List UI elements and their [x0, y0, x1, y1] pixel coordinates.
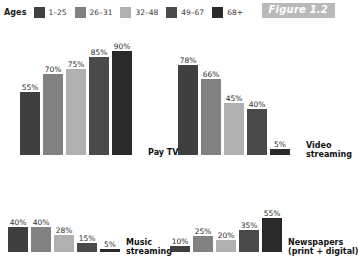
bar-rect — [20, 92, 40, 155]
bar-rect — [66, 69, 86, 155]
panel-label-music-streaming-line2: streaming — [126, 247, 172, 256]
panel-label-video-streaming: Video streaming — [306, 141, 352, 159]
bar-item: 28% — [54, 235, 74, 252]
bar-value-label: 40% — [10, 219, 27, 227]
legend-item-26-31: 26–31 — [75, 7, 113, 18]
legend-title: Ages — [4, 8, 27, 17]
bar-rect — [224, 103, 244, 155]
bar-value-label: 55% — [264, 210, 281, 218]
panel-label-music-streaming: Music streaming — [126, 238, 172, 256]
panel-label-newspapers: Newspapers (print + digital) — [288, 238, 358, 256]
legend-label-32-48: 32–48 — [135, 8, 158, 17]
legend-item-32-48: 32–48 — [120, 7, 158, 18]
legend-label-68-plus: 68+ — [227, 8, 243, 17]
bar-item: 70% — [43, 74, 63, 155]
bar-value-label: 25% — [195, 228, 212, 236]
bar-value-label: 75% — [68, 61, 85, 69]
bar-item: 15% — [77, 243, 97, 252]
bar-value-label: 55% — [22, 84, 39, 92]
bar-group-video-streaming: 78%66%45%40%5% — [178, 40, 290, 155]
bar-rect — [54, 235, 74, 252]
bar-rect — [77, 243, 97, 252]
chart-panel-pay-tv: 55%70%75%85%90% Pay TV — [20, 40, 145, 155]
bar-group-pay-tv: 55%70%75%85%90% — [20, 40, 132, 155]
bar-item: 85% — [89, 57, 109, 155]
panel-label-video-streaming-line1: Video — [306, 141, 331, 150]
bar-value-label: 5% — [274, 141, 286, 149]
bar-rect — [100, 249, 120, 252]
legend-item-49-67: 49–67 — [166, 7, 204, 18]
bar-rect — [8, 227, 28, 252]
bar-item: 55% — [20, 92, 40, 155]
bar-item: 20% — [216, 240, 236, 252]
chart-panel-newspapers: 10%25%20%35%55% Newspapers (print + digi… — [170, 190, 295, 252]
bar-value-label: 20% — [218, 232, 235, 240]
bar-rect — [201, 79, 221, 155]
bar-rect — [112, 51, 132, 155]
legend: Ages 1–25 26–31 32–48 49–67 68+ — [4, 5, 251, 19]
bar-item: 5% — [100, 249, 120, 252]
bar-item: 78% — [178, 65, 198, 155]
bar-rect — [43, 74, 63, 155]
bar-rect — [193, 236, 213, 252]
bar-rect — [262, 218, 282, 252]
bar-rect — [247, 109, 267, 155]
panel-label-video-streaming-line2: streaming — [306, 150, 352, 159]
bar-item: 25% — [193, 236, 213, 252]
legend-swatch-26-31 — [75, 7, 86, 18]
bar-rect — [239, 230, 259, 252]
bar-item: 40% — [247, 109, 267, 155]
bar-item: 55% — [262, 218, 282, 252]
bar-item: 10% — [170, 246, 190, 252]
bar-group-music-streaming: 40%40%28%15%5% — [8, 190, 120, 252]
panel-label-pay-tv-line1: Pay TV — [148, 148, 178, 157]
figure-badge: Figure 1.2 — [262, 3, 335, 18]
bar-value-label: 78% — [180, 57, 197, 65]
bar-item: 45% — [224, 103, 244, 155]
bar-value-label: 10% — [172, 238, 189, 246]
bar-value-label: 40% — [33, 219, 50, 227]
bar-item: 40% — [31, 227, 51, 252]
legend-label-26-31: 26–31 — [90, 8, 113, 17]
panel-label-newspapers-line1: Newspapers — [288, 238, 343, 247]
legend-label-49-67: 49–67 — [181, 8, 204, 17]
bar-value-label: 40% — [249, 101, 266, 109]
panel-label-newspapers-line2: (print + digital) — [288, 247, 358, 256]
legend-item-68-plus: 68+ — [212, 7, 243, 18]
bar-item: 90% — [112, 51, 132, 155]
bar-rect — [31, 227, 51, 252]
bar-item: 75% — [66, 69, 86, 155]
legend-item-1-25: 1–25 — [34, 7, 67, 18]
legend-swatch-32-48 — [120, 7, 131, 18]
panel-label-music-streaming-line1: Music — [126, 238, 152, 247]
legend-swatch-1-25 — [34, 7, 45, 18]
bar-item: 5% — [270, 149, 290, 155]
panel-label-pay-tv: Pay TV — [148, 148, 178, 157]
bar-value-label: 45% — [226, 95, 243, 103]
bar-value-label: 35% — [241, 222, 258, 230]
bar-item: 35% — [239, 230, 259, 252]
bar-rect — [89, 57, 109, 155]
bar-rect — [270, 149, 290, 155]
bar-item: 40% — [8, 227, 28, 252]
legend-label-1-25: 1–25 — [49, 8, 67, 17]
legend-swatch-49-67 — [166, 7, 177, 18]
bar-rect — [170, 246, 190, 252]
bar-value-label: 90% — [114, 43, 131, 51]
bar-value-label: 5% — [104, 241, 116, 249]
bar-value-label: 28% — [56, 227, 73, 235]
bar-value-label: 70% — [45, 66, 62, 74]
chart-panel-video-streaming: 78%66%45%40%5% Video streaming — [178, 40, 303, 155]
legend-swatch-68-plus — [212, 7, 223, 18]
bar-value-label: 15% — [79, 235, 96, 243]
bar-value-label: 66% — [203, 71, 220, 79]
bar-rect — [178, 65, 198, 155]
bar-item: 66% — [201, 79, 221, 155]
bar-group-newspapers: 10%25%20%35%55% — [170, 190, 282, 252]
chart-panel-music-streaming: 40%40%28%15%5% Music streaming — [8, 190, 133, 252]
bar-rect — [216, 240, 236, 252]
bar-value-label: 85% — [91, 49, 108, 57]
